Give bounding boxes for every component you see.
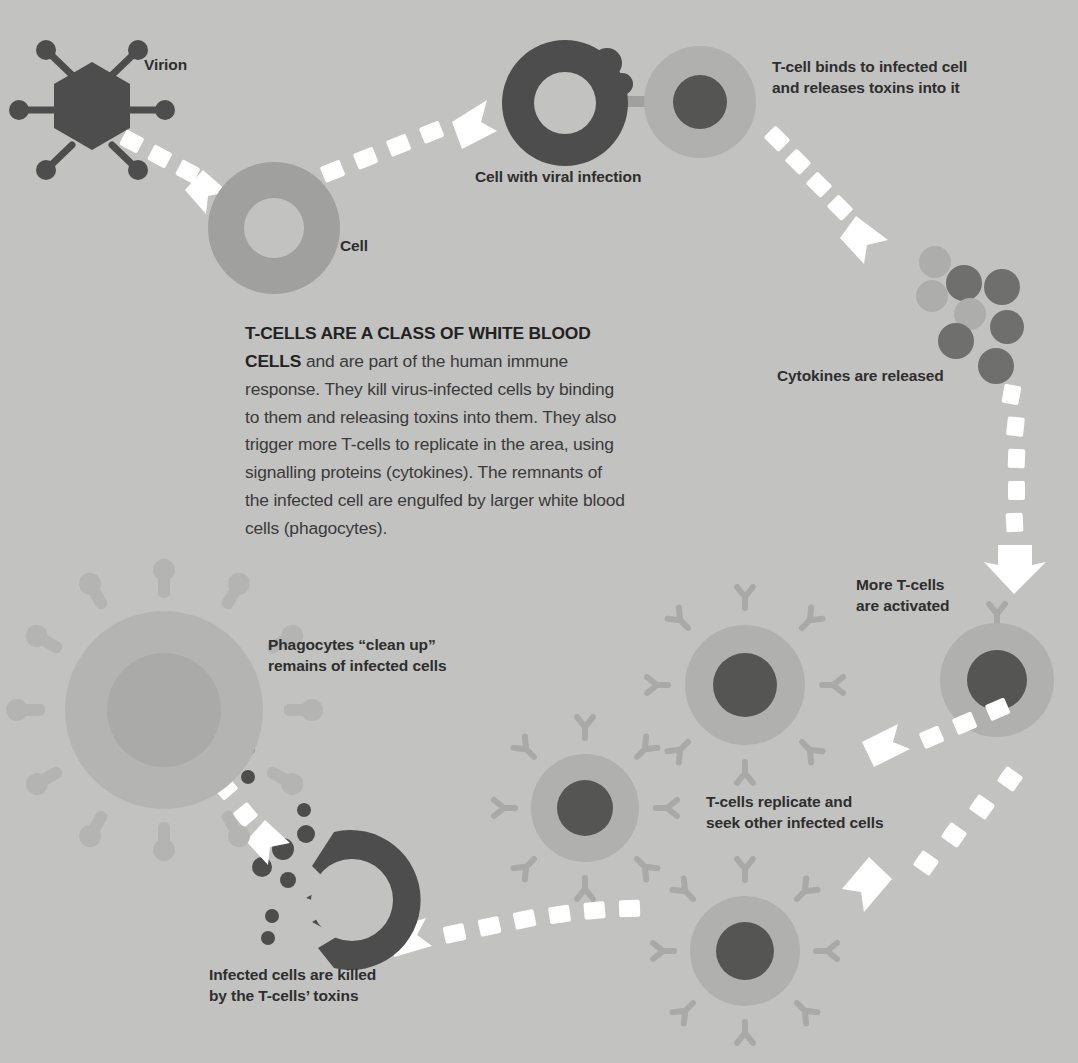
label-tcell-binds-line1: T-cell binds to infected cell [772, 57, 967, 77]
replicating-tcell-lower [653, 859, 837, 1043]
diagram-canvas: Virion Cell Cell with viral infection T-… [0, 0, 1078, 1063]
bound-tcell-icon [644, 46, 756, 158]
arrow-down-to-lower-tcell [842, 766, 1023, 912]
label-replicate-line2: seek other infected cells [706, 813, 884, 833]
label-more-tcells-line2: are activated [856, 596, 949, 616]
label-killed-line2: by the T-cells’ toxins [209, 986, 358, 1006]
arrow-to-cytokines [764, 125, 888, 264]
body-paragraph: T-CELLS ARE A CLASS OF WHITE BLOOD CELLS… [245, 320, 625, 543]
cell-icon [208, 162, 340, 294]
label-phagocytes-line1: Phagocytes “clean up” [268, 635, 436, 655]
label-cytokines: Cytokines are released [777, 366, 944, 386]
label-infected-cell: Cell with viral infection [475, 167, 641, 187]
label-virion: Virion [144, 55, 187, 75]
body-rest: and are part of the human immune respons… [245, 351, 625, 538]
label-phagocytes-line2: remains of infected cells [268, 656, 446, 676]
dying-infected-cell-icon [252, 803, 421, 970]
replicating-tcell-middle [494, 717, 677, 899]
label-more-tcells-line1: More T-cells [856, 575, 944, 595]
arrow-cell-to-infected [320, 100, 497, 183]
phagocyte-icon [6, 559, 323, 861]
arrow-cytokines-to-tcell [984, 384, 1046, 594]
infected-cell-icon [502, 40, 633, 166]
label-cell: Cell [340, 236, 368, 256]
replicating-tcell-upper [647, 587, 843, 783]
cytokine-particles [916, 246, 1024, 384]
label-killed-line1: Infected cells are killed [209, 965, 376, 985]
label-replicate-line1: T-cells replicate and [706, 792, 852, 812]
arrow-to-dying-cell [388, 900, 640, 957]
label-tcell-binds-line2: and releases toxins into it [772, 78, 960, 98]
